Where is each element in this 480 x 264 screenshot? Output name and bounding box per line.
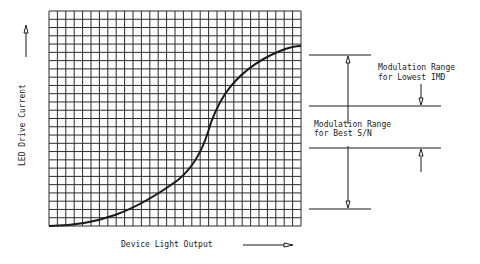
- x-axis-arrow: [243, 243, 293, 247]
- range-arrow-lowest-imd: [419, 84, 423, 172]
- chart-grid: [49, 11, 301, 226]
- x-axis-label: Device Light Output: [121, 240, 213, 249]
- y-axis-arrow: [24, 25, 28, 57]
- best-sn-label-line1: Modulation Range: [314, 120, 391, 129]
- y-axis-label: LED Drive Current: [18, 84, 27, 166]
- lowest-imd-label-line2: for Lowest IMD: [378, 73, 446, 82]
- diagram-canvas: LED Drive Current Device Light Output Mo…: [0, 0, 480, 264]
- lowest-imd-label-line1: Modulation Range: [378, 63, 455, 72]
- best-sn-label-line2: for Best S/N: [314, 129, 372, 138]
